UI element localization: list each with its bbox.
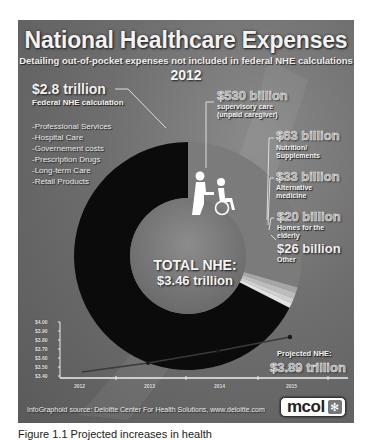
nutrition-label-2: Supplements — [276, 152, 320, 160]
y-tick: $3.80 — [35, 337, 48, 343]
federal-amount: $2.8 trillion — [32, 81, 106, 97]
list-item: -Governement costs — [32, 143, 112, 154]
y-tick: $3.50 — [35, 364, 48, 370]
other-label: Other — [277, 256, 296, 264]
list-item: -Prescription Drugs — [32, 154, 112, 165]
snowflake-icon: ✻ — [328, 400, 342, 414]
homes-amount: $20 billion — [277, 209, 341, 224]
mcol-logo: mcol ✻ — [280, 397, 346, 417]
alternative-amount: $33 billion — [276, 169, 340, 184]
list-item: -Retail Products — [32, 176, 112, 187]
subtitle: Detailing out-of-pocket expenses not inc… — [18, 55, 354, 66]
list-item: -Professional Services — [32, 121, 112, 132]
x-tick: 2012 — [74, 383, 85, 389]
infographic-panel: National Healthcare Expenses Detailing o… — [18, 20, 354, 423]
homes-label-2: elderly — [277, 232, 300, 240]
y-tick: $3.40 — [35, 373, 48, 379]
x-tick: 2015 — [286, 383, 297, 389]
list-item: -Hospital Care — [32, 132, 112, 143]
x-tick: 2014 — [214, 383, 225, 389]
projection-label: Projected NHE: — [277, 350, 332, 358]
total-nhe-label: TOTAL NHE: $3.46 trillion — [139, 257, 251, 289]
figure-caption: Figure 1.1 Projected increases in health — [18, 428, 212, 440]
other-amount: $26 billion — [277, 241, 341, 256]
projection-value: $3.89 trillion — [270, 360, 346, 375]
supervisory-label-1: supervisory care — [217, 103, 273, 111]
y-tick: $4.00 — [35, 319, 48, 325]
donut-hole — [130, 198, 246, 314]
homes-label-1: Homes for the — [277, 224, 324, 232]
y-tick: $3.60 — [35, 355, 48, 361]
alternative-label-2: medicine — [276, 192, 306, 200]
supervisory-label-2: (unpaid caregiver) — [217, 111, 278, 119]
y-tick: $3.90 — [35, 328, 48, 334]
nutrition-label-1: Nutrition/ — [276, 144, 307, 152]
source-credit: InfoGraphoid source: Deloitte Center For… — [27, 406, 265, 413]
x-tick: 2013 — [144, 383, 155, 389]
nutrition-amount: $63 billion — [276, 128, 340, 143]
list-item: -Long-term Care — [32, 165, 112, 176]
federal-label: Federal NHE calculation — [32, 99, 124, 107]
page-title: National Healthcare Expenses — [18, 27, 354, 54]
y-tick: $3.70 — [35, 346, 48, 352]
federal-items-list: -Professional Services -Hospital Care -G… — [32, 121, 112, 187]
alternative-label-1: Alternative — [276, 184, 312, 192]
supervisory-amount: $530 billion — [217, 88, 288, 103]
